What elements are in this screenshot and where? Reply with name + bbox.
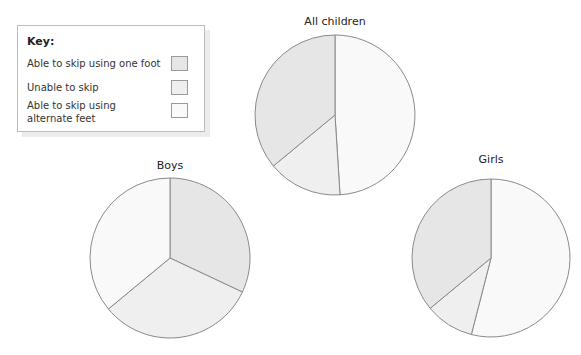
pie-girls xyxy=(412,179,570,337)
pie-boys xyxy=(90,178,250,338)
pie-all-children xyxy=(255,35,415,195)
pie-charts xyxy=(0,0,581,355)
pie-slice xyxy=(335,35,415,195)
